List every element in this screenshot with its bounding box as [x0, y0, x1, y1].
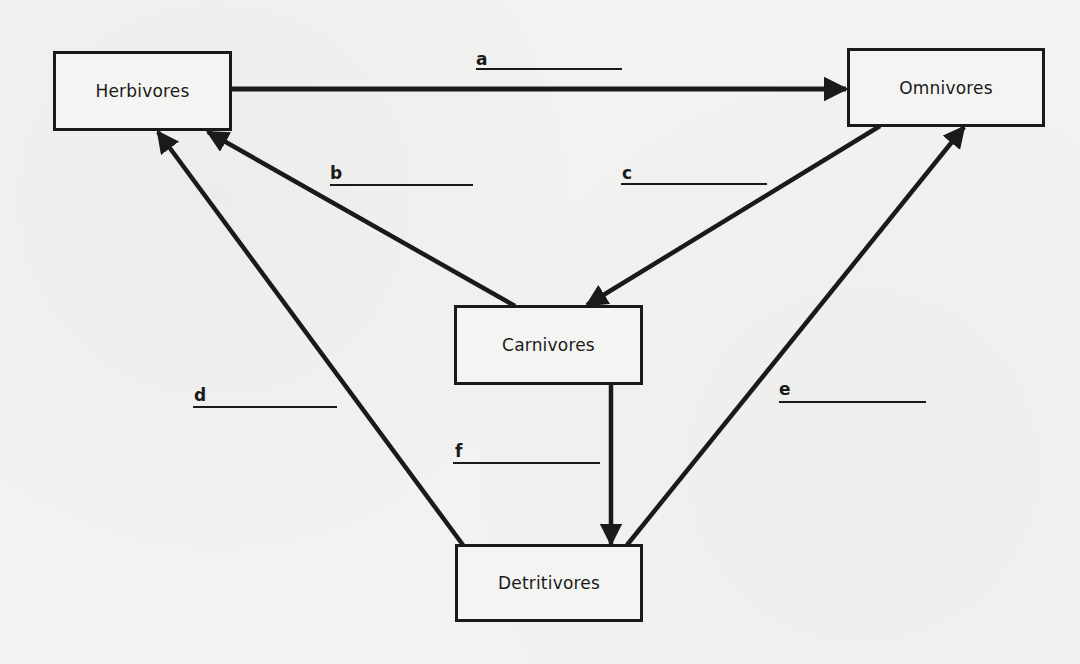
node-herbivores: Herbivores	[53, 51, 232, 131]
node-omnivores: Omnivores	[847, 48, 1045, 127]
edge-label-f: f	[455, 443, 462, 460]
node-label: Omnivores	[899, 78, 993, 98]
answer-blank-d[interactable]	[193, 406, 337, 408]
node-label: Carnivores	[502, 335, 595, 355]
answer-blank-b[interactable]	[330, 184, 473, 186]
edge-label-e: e	[779, 381, 791, 398]
node-label: Herbivores	[95, 81, 189, 101]
arrow-c-omnivores-to-carnivores	[587, 126, 880, 305]
answer-blank-c[interactable]	[621, 183, 767, 185]
edge-label-a: a	[476, 51, 487, 68]
node-detritivores: Detritivores	[455, 544, 643, 622]
arrow-d-detritivores-to-herbivores	[158, 132, 463, 545]
answer-blank-f[interactable]	[453, 462, 600, 464]
answer-blank-a[interactable]	[476, 68, 622, 70]
arrow-e-detritivores-to-omnivores	[627, 127, 964, 545]
arrow-b-carnivores-to-herbivores	[208, 132, 515, 306]
edge-label-d: d	[194, 387, 206, 404]
edge-label-c: c	[622, 165, 632, 182]
answer-blank-e[interactable]	[779, 401, 926, 403]
node-carnivores: Carnivores	[454, 305, 643, 385]
node-label: Detritivores	[498, 573, 600, 593]
edge-label-b: b	[330, 165, 342, 182]
